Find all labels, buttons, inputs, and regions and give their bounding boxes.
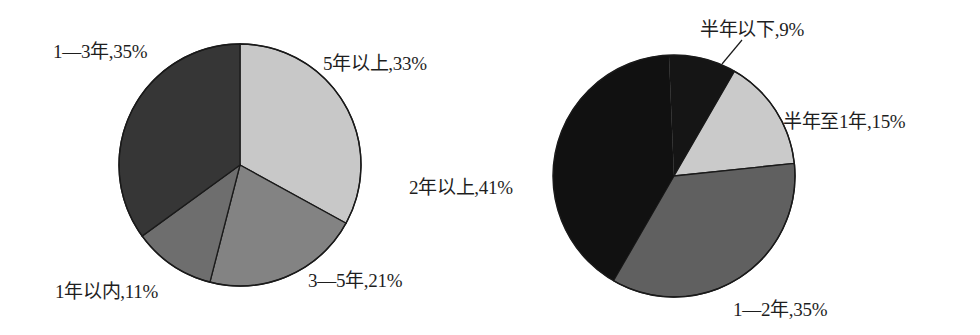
label-2-years-plus: 2年以上,41% — [409, 172, 513, 199]
label-5-years-plus: 5年以上,33% — [323, 48, 427, 75]
pie-chart-work-experience: 5年以上,33% 3—5年,21% 1年以内,11% 1—3年,35% — [0, 0, 490, 335]
label-3-5-years: 3—5年,21% — [308, 265, 402, 292]
leader-line — [722, 40, 742, 64]
label-within-1-year: 1年以内,11% — [55, 276, 158, 303]
label-under-half-year: 半年以下,9% — [700, 14, 804, 41]
label-1-3-years: 1—3年,35% — [53, 36, 147, 63]
label-1-2-years: 1—2年,35% — [733, 294, 827, 321]
pie-chart-tenure: 半年至1年,15% 1—2年,35% 2年以上,41% 半年以下,9% — [490, 0, 980, 335]
label-half-to-1-year: 半年至1年,15% — [783, 106, 905, 133]
pie-right-svg — [490, 0, 980, 335]
